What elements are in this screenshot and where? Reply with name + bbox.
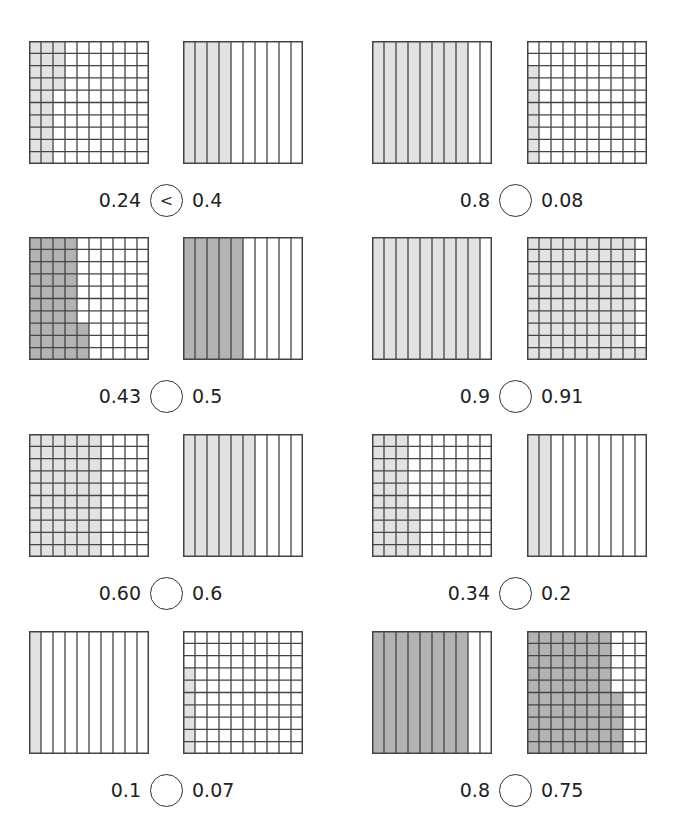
problem-2-right-hundredths-grid: [527, 41, 647, 164]
right-number: 0.2: [541, 582, 601, 604]
problem-3-right-tenths-grid: [183, 237, 303, 360]
problem-2-left-tenths-grid: [372, 41, 492, 164]
right-number: 0.08: [541, 189, 601, 211]
problem-2-comparison: 0.80.08: [430, 182, 601, 218]
problem-8-right-hundredths-grid: [527, 631, 647, 754]
problem-4-comparison: 0.90.91: [430, 378, 601, 414]
right-number: 0.75: [541, 779, 601, 801]
comparison-answer-circle[interactable]: [150, 774, 183, 807]
comparison-answer-circle[interactable]: [150, 577, 183, 610]
problem-7-comparison: 0.10.07: [81, 772, 252, 808]
problem-5-left-hundredths-grid: [29, 434, 149, 557]
problem-7-left-tenths-grid: [29, 631, 149, 754]
problem-5-comparison: 0.600.6: [81, 575, 252, 611]
problem-3-left-hundredths-grid: [29, 237, 149, 360]
problem-1-comparison: 0.24<0.4: [81, 182, 252, 218]
problem-8-comparison: 0.80.75: [430, 772, 601, 808]
comparison-answer-circle[interactable]: [499, 380, 532, 413]
left-number: 0.60: [81, 582, 141, 604]
problem-6-left-hundredths-grid: [372, 434, 492, 557]
comparison-answer-circle[interactable]: [499, 577, 532, 610]
comparison-answer-circle[interactable]: [499, 774, 532, 807]
comparison-answer-circle[interactable]: [499, 184, 532, 217]
left-number: 0.9: [430, 385, 490, 407]
right-number: 0.5: [192, 385, 252, 407]
problem-4-right-hundredths-grid: [527, 237, 647, 360]
problem-6-right-tenths-grid: [527, 434, 647, 557]
problem-1-right-tenths-grid: [183, 41, 303, 164]
problem-6-comparison: 0.340.2: [430, 575, 601, 611]
left-number: 0.8: [430, 779, 490, 801]
comparison-answer-circle[interactable]: <: [150, 184, 183, 217]
problem-4-left-tenths-grid: [372, 237, 492, 360]
problem-1-left-hundredths-grid: [29, 41, 149, 164]
problem-3-comparison: 0.430.5: [81, 378, 252, 414]
left-number: 0.24: [81, 189, 141, 211]
problem-7-right-hundredths-grid: [183, 631, 303, 754]
left-number: 0.8: [430, 189, 490, 211]
right-number: 0.6: [192, 582, 252, 604]
left-number: 0.1: [81, 779, 141, 801]
comparison-answer-circle[interactable]: [150, 380, 183, 413]
right-number: 0.91: [541, 385, 601, 407]
right-number: 0.07: [192, 779, 252, 801]
problem-5-right-tenths-grid: [183, 434, 303, 557]
right-number: 0.4: [192, 189, 252, 211]
left-number: 0.43: [81, 385, 141, 407]
problem-8-left-tenths-grid: [372, 631, 492, 754]
left-number: 0.34: [430, 582, 490, 604]
